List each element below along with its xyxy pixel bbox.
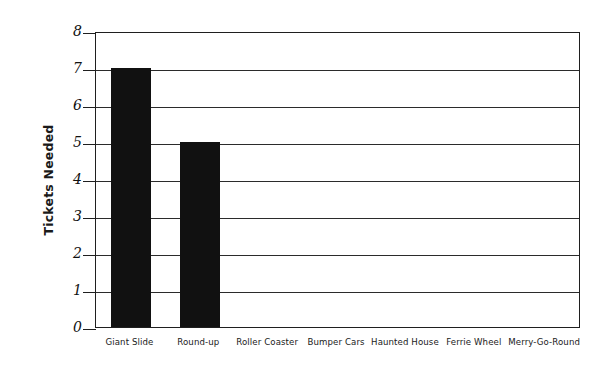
y-axis-tick-labels: 012345678 — [52, 0, 82, 368]
y-axis-tick-label: 3 — [56, 209, 82, 223]
y-axis-tick-mark — [83, 255, 96, 256]
x-axis-tick-label: Round-up — [164, 336, 233, 356]
y-axis-tick-mark — [83, 181, 96, 182]
plot-area — [95, 32, 580, 328]
y-axis-tick-mark — [83, 70, 96, 71]
bar — [180, 142, 220, 327]
y-axis-tick-label: 8 — [56, 24, 82, 38]
y-axis-tick-mark — [83, 107, 96, 108]
gridline — [96, 218, 579, 219]
y-axis-tick-label: 0 — [56, 320, 82, 334]
y-axis-tick-mark — [83, 218, 96, 219]
y-axis-tick-label: 4 — [56, 172, 82, 186]
y-axis-tick-mark — [83, 292, 96, 293]
y-axis-tick-label: 1 — [56, 283, 82, 297]
gridline — [96, 70, 579, 71]
x-axis-tick-label: Giant Slide — [95, 336, 164, 356]
y-axis-tick-mark — [83, 144, 96, 145]
x-axis-tick-label: Haunted House — [371, 336, 440, 356]
gridline — [96, 181, 579, 182]
y-axis-tick-label: 6 — [56, 98, 82, 112]
gridline — [96, 107, 579, 108]
y-axis-tick-label: 2 — [56, 246, 82, 260]
x-axis-tick-label: Ferrie Wheel — [439, 336, 508, 356]
gridline — [96, 292, 579, 293]
gridline — [96, 255, 579, 256]
y-axis-tick-label: 5 — [56, 135, 82, 149]
x-axis-tick-label: Merry-Go-Round — [508, 336, 580, 356]
x-axis-tick-label: Bumper Cars — [302, 336, 371, 356]
x-axis-tick-label: Roller Coaster — [233, 336, 302, 356]
y-axis-tick-mark — [83, 329, 96, 330]
bar — [111, 68, 151, 327]
y-axis-tick-mark — [83, 33, 96, 34]
x-axis-tick-labels: Giant SlideRound-upRoller CoasterBumper … — [95, 336, 580, 356]
gridline — [96, 144, 579, 145]
y-axis-tick-label: 7 — [56, 61, 82, 75]
bar-chart: Tickets Needed 012345678 Giant SlideRoun… — [0, 0, 607, 368]
